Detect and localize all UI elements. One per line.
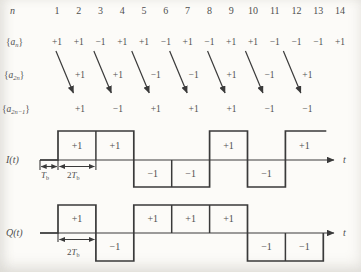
n-index: 13 <box>313 5 323 16</box>
delay-arrow-icon <box>208 51 226 93</box>
2tb-span-label: 2Tb <box>67 170 80 181</box>
block-value: +1 <box>72 213 83 224</box>
n-index: 11 <box>270 5 280 16</box>
block-value: −1 <box>261 241 272 252</box>
n-index: 9 <box>229 5 234 16</box>
a2n1-value: +1 <box>75 104 85 114</box>
it-label: I(t) <box>5 154 19 166</box>
a2n1-row-label: {a2n−1} <box>2 104 30 115</box>
n-index: 3 <box>98 5 103 16</box>
a2n-value: +1 <box>302 70 312 80</box>
delay-arrow-icon <box>245 51 263 93</box>
n-row-label: n <box>10 5 15 16</box>
an-value: +1 <box>52 37 62 47</box>
n-index: 2 <box>76 5 81 16</box>
an-value: +1 <box>226 37 236 47</box>
n-index: 8 <box>207 5 212 16</box>
a2n-value: −1 <box>189 70 199 80</box>
n-index: 4 <box>120 5 125 16</box>
an-value: −1 <box>204 37 214 47</box>
a2n-value: +1 <box>226 70 236 80</box>
an-value: −1 <box>291 37 301 47</box>
delay-arrow-icon <box>94 51 112 93</box>
block-value: +1 <box>110 140 121 151</box>
block-value: −1 <box>185 168 196 179</box>
waveform-I: I(t)t+1+1−1−1+1−1+1Tb2Tb <box>5 131 346 187</box>
block-value: −1 <box>147 168 158 179</box>
n-index: 6 <box>163 5 168 16</box>
n-index: 5 <box>142 5 147 16</box>
a2n-value: −1 <box>151 70 161 80</box>
an-value: −1 <box>270 37 280 47</box>
n-index: 10 <box>248 5 258 16</box>
delay-arrow-icon <box>283 51 301 93</box>
an-value: +1 <box>139 37 149 47</box>
a2n1-value: +1 <box>151 104 161 114</box>
t-axis-label: t <box>343 154 346 165</box>
n-index: 12 <box>291 5 301 16</box>
an-value: −1 <box>313 37 323 47</box>
block-value: +1 <box>185 213 196 224</box>
qt-label: Q(t) <box>6 227 23 239</box>
t-axis-label: t <box>343 227 346 238</box>
a2n-value: +1 <box>75 70 85 80</box>
a2n1-value: −1 <box>302 104 312 114</box>
delay-arrow-icon <box>170 51 188 93</box>
waveform-Q: Q(t)t+1−1+1+1+1−1−12Tb <box>6 205 346 261</box>
n-index: 1 <box>55 5 60 16</box>
a2n1-value: −1 <box>264 104 274 114</box>
tb-span-label: Tb <box>41 170 49 181</box>
a2n-value: +1 <box>113 70 123 80</box>
block-value: −1 <box>261 168 272 179</box>
2tb-span-label: 2Tb <box>67 247 80 258</box>
an-value: −1 <box>95 37 105 47</box>
scanned-figure-page: n1234567891011121314{an}+1+1−1+1+1−1+1−1… <box>0 0 361 272</box>
a2n1-value: +1 <box>226 104 236 114</box>
an-value: +1 <box>74 37 84 47</box>
block-value: −1 <box>110 241 121 252</box>
an-value: +1 <box>248 37 258 47</box>
signal-trace <box>40 131 326 187</box>
an-value: +1 <box>183 37 193 47</box>
block-value: −1 <box>299 241 310 252</box>
a2n1-value: +1 <box>189 104 199 114</box>
an-row-label: {an} <box>6 37 23 48</box>
delay-arrow-icon <box>132 51 150 93</box>
a2n-row-label: {a2n} <box>4 70 24 81</box>
n-index: 7 <box>185 5 190 16</box>
an-value: +1 <box>335 37 345 47</box>
block-value: +1 <box>147 213 158 224</box>
an-value: +1 <box>117 37 127 47</box>
n-index: 14 <box>335 5 345 16</box>
block-value: +1 <box>72 140 83 151</box>
an-value: −1 <box>161 37 171 47</box>
a2n-value: −1 <box>264 70 274 80</box>
block-value: +1 <box>223 140 234 151</box>
block-value: +1 <box>299 140 310 151</box>
block-value: +1 <box>223 213 234 224</box>
qpsk-serial-to-parallel-figure: n1234567891011121314{an}+1+1−1+1+1−1+1−1… <box>0 0 361 272</box>
delay-arrow-icon <box>56 51 73 93</box>
a2n1-value: −1 <box>113 104 123 114</box>
